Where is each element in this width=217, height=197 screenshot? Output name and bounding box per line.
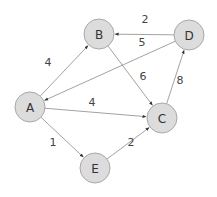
node-label: A — [26, 101, 35, 115]
nodes-layer: ABCDE — [15, 19, 204, 183]
edge-a-b: 4 — [40, 46, 88, 96]
edge-weight-label: 2 — [128, 136, 135, 149]
edge-weight-label: 8 — [177, 74, 184, 87]
node-d: D — [174, 20, 204, 50]
edge-arrow-line — [41, 117, 83, 157]
edge-weight-label: 5 — [139, 36, 146, 49]
node-label: D — [184, 29, 193, 43]
edge-arrow-line — [40, 46, 88, 96]
node-b: B — [84, 19, 114, 49]
edge-c-d: 8 — [167, 50, 184, 104]
edge-weight-label: 6 — [140, 70, 147, 83]
edge-arrow-line — [45, 108, 146, 116]
edge-weight-label: 2 — [142, 13, 149, 26]
node-label: B — [95, 28, 103, 42]
node-c: C — [147, 103, 177, 133]
graph-canvas: 42568412 ABCDE — [0, 0, 217, 197]
edge-d-a: 5 — [45, 36, 176, 101]
edge-a-e: 1 — [41, 117, 83, 157]
node-label: E — [91, 162, 99, 176]
edge-d-b: 2 — [115, 13, 174, 35]
node-a: A — [15, 92, 45, 122]
edge-weight-label: 4 — [89, 96, 96, 109]
edge-weight-label: 4 — [45, 56, 52, 69]
node-label: C — [158, 112, 166, 126]
edge-a-c: 4 — [45, 96, 146, 117]
node-e: E — [80, 153, 110, 183]
edge-e-c: 2 — [107, 128, 149, 159]
edge-weight-label: 1 — [50, 136, 57, 149]
